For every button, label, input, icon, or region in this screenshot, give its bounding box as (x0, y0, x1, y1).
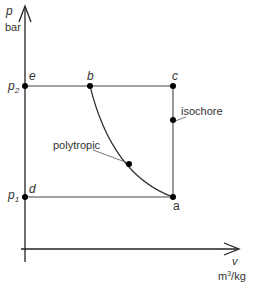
point-b (87, 83, 93, 89)
v-axis-symbol: v (232, 255, 239, 267)
point-polytropic-mid (126, 161, 132, 167)
label-d: d (29, 182, 36, 196)
point-d (22, 194, 28, 200)
polytropic-leader (93, 150, 128, 163)
isochore-label: isochore (181, 105, 223, 117)
polytropic-curve (90, 86, 173, 197)
v-axis-unit: m3/kg (218, 270, 246, 282)
label-b: b (87, 69, 94, 83)
p2-label: p2 (7, 79, 20, 95)
label-e: e (29, 69, 36, 83)
p-axis-symbol: p (5, 4, 13, 18)
p-axis-unit: bar (5, 21, 21, 33)
isochore-leader (175, 117, 186, 121)
point-c (170, 83, 176, 89)
p1-label: p1 (7, 188, 19, 204)
label-c: c (172, 69, 178, 83)
pv-diagram: p bar v m3/kg p2 p1 e b c d a isochore p… (0, 0, 254, 286)
label-a: a (173, 199, 180, 213)
polytropic-label: polytropic (53, 139, 101, 151)
point-e (22, 83, 28, 89)
point-isochore-mid (170, 117, 176, 123)
